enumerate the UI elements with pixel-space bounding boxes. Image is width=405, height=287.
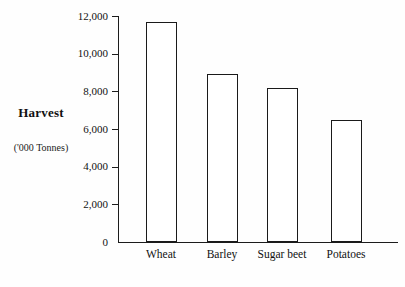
x-category-label: Sugar beet	[257, 248, 307, 261]
x-category-label: Potatoes	[321, 248, 371, 261]
x-axis-line	[118, 242, 398, 243]
bar-sugar-beet	[267, 88, 298, 242]
y-tick-mark	[112, 16, 118, 17]
y-tick-mark	[112, 91, 118, 92]
y-axis-units: ('000 Tonnes)	[2, 142, 80, 153]
y-tick-label: 2,000	[56, 198, 108, 211]
y-tick-mark	[112, 204, 118, 205]
x-category-label: Barley	[197, 248, 247, 261]
y-tick-label: 10,000	[56, 47, 108, 60]
bar-chart-figure: Harvest ('000 Tonnes) 02,0004,0006,0008,…	[0, 0, 405, 287]
y-tick-mark	[112, 129, 118, 130]
y-tick-label: 4,000	[56, 160, 108, 173]
bar-wheat	[146, 22, 177, 242]
x-category-label: Wheat	[136, 248, 186, 261]
y-tick-label: 0	[56, 236, 108, 249]
y-tick-label: 8,000	[56, 85, 108, 98]
y-axis-line	[118, 16, 119, 242]
y-axis-title: Harvest	[2, 105, 80, 121]
y-tick-mark	[112, 54, 118, 55]
y-tick-label: 12,000	[56, 10, 108, 23]
bar-potatoes	[331, 120, 362, 242]
y-tick-mark	[112, 167, 118, 168]
bar-barley	[207, 74, 238, 242]
y-tick-label: 6,000	[56, 123, 108, 136]
